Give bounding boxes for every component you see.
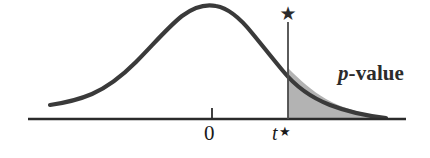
- x-tick-label-tstar-star-icon: ★: [279, 124, 291, 139]
- x-tick-label-tstar-base: t: [272, 122, 278, 144]
- x-tick-label-tstar: t★: [272, 123, 291, 143]
- p-value-distribution-figure: ★ 0 t★ p-value: [0, 0, 430, 158]
- distribution-curve: [50, 5, 386, 118]
- pvalue-annotation-rest: -value: [349, 61, 404, 85]
- x-tick-label-zero-text: 0: [204, 123, 215, 144]
- star-marker-icon: ★: [279, 2, 296, 24]
- pvalue-annotation-p: p: [338, 61, 349, 85]
- pvalue-annotation-label: p-value: [338, 61, 404, 86]
